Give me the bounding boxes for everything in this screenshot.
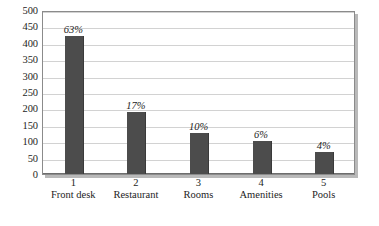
- bar: [315, 152, 334, 174]
- bar-value-label: 17%: [126, 100, 145, 111]
- gridline: [43, 94, 354, 95]
- bar: [127, 112, 146, 174]
- y-axis: 500450400350300250200150100500: [0, 11, 38, 175]
- x-category-label: Amenities: [240, 189, 283, 201]
- x-category-label: Restaurant: [113, 189, 158, 201]
- bar-chart: 500450400350300250200150100500 63%17%10%…: [0, 0, 379, 226]
- bar-value-label: 4%: [317, 140, 331, 151]
- gridline: [43, 12, 354, 13]
- bar-value-label: 6%: [254, 129, 268, 140]
- x-category: 5Pools: [312, 176, 335, 201]
- y-tick-label: 300: [0, 72, 38, 82]
- gridline: [43, 61, 354, 62]
- y-tick-label: 350: [0, 55, 38, 65]
- bar: [190, 133, 209, 174]
- x-category-label: Rooms: [184, 189, 214, 201]
- y-tick-label: 250: [0, 88, 38, 98]
- y-tick-label: 50: [0, 154, 38, 164]
- gridline: [43, 28, 354, 29]
- y-tick-label: 150: [0, 121, 38, 131]
- x-category-label: Front desk: [51, 189, 96, 201]
- bar-value-label: 10%: [189, 121, 208, 132]
- y-tick-label: 100: [0, 137, 38, 147]
- y-tick-label: 500: [0, 6, 38, 16]
- plot-area: [42, 11, 355, 175]
- x-category-number: 2: [113, 176, 158, 189]
- gridline: [43, 78, 354, 79]
- x-axis: 1Front desk2Restaurant3Rooms4Amenities5P…: [42, 176, 355, 226]
- x-category: 2Restaurant: [113, 176, 158, 201]
- bar: [65, 36, 84, 174]
- x-category: 3Rooms: [184, 176, 214, 201]
- x-category-number: 4: [240, 176, 283, 189]
- y-tick-label: 400: [0, 39, 38, 49]
- y-tick-label: 0: [0, 170, 38, 180]
- x-category-number: 1: [51, 176, 96, 189]
- bar-value-label: 63%: [64, 24, 83, 35]
- y-tick-label: 200: [0, 104, 38, 114]
- x-category: 4Amenities: [240, 176, 283, 201]
- x-category: 1Front desk: [51, 176, 96, 201]
- bar: [253, 141, 272, 174]
- gridline: [43, 45, 354, 46]
- gridline: [43, 110, 354, 111]
- y-tick-label: 450: [0, 22, 38, 32]
- x-category-number: 3: [184, 176, 214, 189]
- x-category-label: Pools: [312, 189, 335, 201]
- x-category-number: 5: [312, 176, 335, 189]
